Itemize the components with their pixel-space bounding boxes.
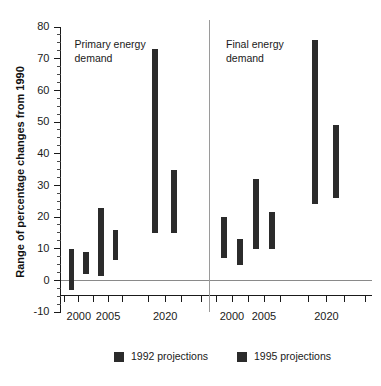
legend-label: 1992 projections (131, 350, 208, 362)
y-tick-label: -10 (34, 305, 50, 317)
x-tick-label: 2000 (67, 310, 91, 322)
y-tick-label: 10 (37, 242, 49, 254)
legend-swatch (237, 352, 247, 362)
x-tick-label: 2020 (314, 310, 338, 322)
y-tick-label: 30 (37, 179, 49, 191)
legend-swatch (114, 352, 124, 362)
range-bar (312, 40, 318, 205)
y-tick-label: 70 (37, 52, 49, 64)
y-tick-label: 50 (37, 115, 49, 127)
y-tick-label: 0 (43, 274, 49, 286)
legend-label: 1995 projections (254, 350, 331, 362)
panel-label-line1: Primary energy (75, 38, 147, 50)
x-tick-label: 2005 (252, 310, 276, 322)
range-bar (69, 249, 75, 290)
range-bar (269, 212, 275, 248)
range-bar (333, 125, 339, 198)
x-tick-label: 2020 (153, 310, 177, 322)
x-tick-label: 2005 (96, 310, 120, 322)
range-bar (113, 230, 119, 260)
panel-label-line2: demand (75, 52, 113, 64)
chart-svg: Range of percentage changes from 1990 -1… (0, 0, 381, 386)
panel-label-line2: demand (226, 52, 264, 64)
y-tick-label: 20 (37, 210, 49, 222)
y-axis-title: Range of percentage changes from 1990 (14, 66, 26, 278)
chart-figure: Range of percentage changes from 1990 -1… (0, 0, 381, 386)
y-tick-label: 60 (37, 84, 49, 96)
y-tick-label: 40 (37, 147, 49, 159)
range-bar (83, 252, 89, 274)
range-bar (152, 49, 158, 233)
range-bar (221, 217, 227, 258)
range-bar (237, 239, 243, 264)
range-bar (98, 208, 104, 276)
y-tick-label: 80 (37, 20, 49, 32)
panel-label-line1: Final energy (226, 38, 285, 50)
range-bar (253, 179, 259, 249)
x-tick-label: 2000 (220, 310, 244, 322)
range-bar (171, 170, 177, 233)
